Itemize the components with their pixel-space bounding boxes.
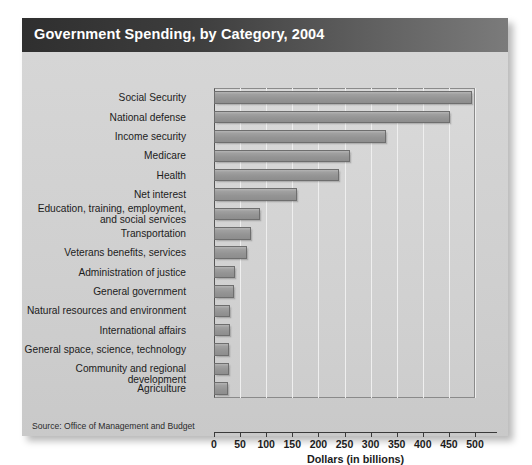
bar-series	[214, 88, 475, 398]
bar-row	[214, 285, 475, 298]
bar[interactable]	[214, 111, 450, 124]
x-tick-label-100: 100	[257, 438, 275, 450]
bar-row	[214, 324, 475, 337]
category-label: Net interest	[134, 189, 186, 200]
category-label: Administration of justice	[78, 267, 186, 278]
category-label: General space, science, technology	[25, 344, 186, 355]
bar-row	[214, 246, 475, 259]
category-label: Transportation	[121, 228, 186, 239]
x-tick-label-350: 350	[388, 438, 406, 450]
bar-row	[214, 188, 475, 201]
category-label: Medicare	[144, 150, 186, 161]
x-axis-title: Dollars (in billions)	[214, 453, 497, 465]
bar[interactable]	[214, 285, 234, 298]
bar-row	[214, 266, 475, 279]
x-tick-label-50: 50	[234, 438, 246, 450]
x-axis-line	[214, 432, 497, 433]
category-label: National defense	[110, 112, 186, 123]
bar[interactable]	[214, 246, 247, 259]
x-tick-350	[397, 432, 398, 437]
category-label: Veterans benefits, services	[64, 247, 186, 258]
bar-row	[214, 382, 475, 395]
category-label: International affairs	[100, 325, 186, 336]
chart-header-band: Government Spending, by Category, 2004	[22, 18, 508, 52]
bar[interactable]	[214, 382, 228, 395]
bar-row	[214, 169, 475, 182]
x-tick-100	[266, 432, 267, 437]
chart-card: Government Spending, by Category, 2004 S…	[22, 18, 508, 436]
bar[interactable]	[214, 188, 297, 201]
bar[interactable]	[214, 266, 235, 279]
x-tick-400	[423, 432, 424, 437]
bar-row	[214, 150, 475, 163]
bar[interactable]	[214, 305, 230, 318]
category-label: Education, training, employment, and soc…	[38, 203, 186, 225]
bar-row	[214, 227, 475, 240]
gridline-500	[475, 88, 476, 398]
bar[interactable]	[214, 343, 229, 356]
chart-body: Social SecurityNational defenseIncome se…	[22, 52, 508, 436]
bar-row	[214, 208, 475, 221]
x-tick-50	[240, 432, 241, 437]
chart-title: Government Spending, by Category, 2004	[34, 26, 324, 42]
plot-wrapper	[192, 88, 475, 398]
plot-area	[214, 88, 475, 398]
bar-row	[214, 305, 475, 318]
x-tick-200	[318, 432, 319, 437]
bar[interactable]	[214, 130, 386, 143]
x-tick-label-0: 0	[211, 438, 217, 450]
x-tick-label-300: 300	[362, 438, 380, 450]
category-label: Health	[157, 170, 186, 181]
bar[interactable]	[214, 150, 350, 163]
x-tick-label-200: 200	[310, 438, 328, 450]
x-tick-label-450: 450	[440, 438, 458, 450]
bar[interactable]	[214, 324, 230, 337]
bar-row	[214, 363, 475, 376]
bar[interactable]	[214, 363, 229, 376]
bar-row	[214, 343, 475, 356]
x-tick-0	[214, 432, 215, 437]
bar-row	[214, 130, 475, 143]
bar[interactable]	[214, 169, 339, 182]
category-label: Social Security	[119, 92, 186, 103]
x-tick-250	[345, 432, 346, 437]
category-axis-labels: Social SecurityNational defenseIncome se…	[22, 88, 190, 398]
x-tick-150	[292, 432, 293, 437]
bar-row	[214, 111, 475, 124]
category-label: Agriculture	[137, 383, 186, 394]
x-tick-500	[475, 432, 476, 437]
x-tick-label-150: 150	[284, 438, 302, 450]
bar[interactable]	[214, 208, 260, 221]
category-label: Income security	[115, 131, 186, 142]
source-note: Source: Office of Management and Budget	[32, 421, 195, 431]
category-label: General government	[93, 286, 186, 297]
x-tick-300	[371, 432, 372, 437]
x-tick-label-250: 250	[336, 438, 354, 450]
bar[interactable]	[214, 227, 251, 240]
x-tick-450	[449, 432, 450, 437]
x-tick-label-500: 500	[466, 438, 484, 450]
bar[interactable]	[214, 91, 472, 104]
x-tick-label-400: 400	[414, 438, 432, 450]
category-label: Natural resources and environment	[27, 305, 186, 316]
bar-row	[214, 91, 475, 104]
